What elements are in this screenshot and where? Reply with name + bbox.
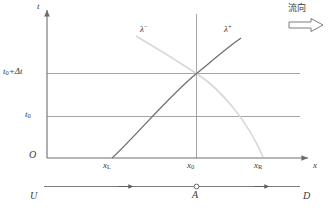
- tick-extra: +Δt: [9, 66, 23, 76]
- tick-subscript: 0: [191, 163, 194, 170]
- characteristics-diagram: t t0+Δt t0 O xL x0 xR x λ− λ+ U A D 流向: [0, 0, 333, 211]
- tick-subscript: 0: [28, 112, 31, 119]
- upstream-label: U: [30, 191, 37, 201]
- tick-label-t0-plus-dt: t0+Δt: [3, 67, 23, 77]
- tick-label-t0: t0: [25, 110, 31, 120]
- flow-direction-label: 流向: [288, 4, 306, 13]
- curve-superscript: −: [144, 23, 148, 30]
- flow-direction-arrow-icon: [289, 19, 323, 32]
- curve-lambda-plus: [112, 38, 241, 158]
- point-a-label: A: [192, 190, 198, 200]
- diagram-canvas: [0, 0, 333, 211]
- tick-label-x0: x0: [187, 161, 194, 171]
- curve-label-lambda-minus: λ−: [140, 24, 148, 34]
- tick-subscript: R: [258, 163, 262, 170]
- tick-subscript: L: [107, 163, 111, 170]
- bottom-axis-line: [44, 184, 300, 189]
- curve-superscript: +: [228, 23, 232, 30]
- tick-label-xL: xL: [103, 161, 111, 171]
- downstream-label: D: [303, 191, 310, 201]
- t-axis-label: t: [37, 2, 40, 11]
- x-axis-label: x: [313, 161, 317, 170]
- curve-lambda-minus: [136, 36, 263, 157]
- tick-label-xR: xR: [254, 161, 262, 171]
- origin-label: O: [29, 150, 36, 160]
- curve-label-lambda-plus: λ+: [224, 24, 232, 34]
